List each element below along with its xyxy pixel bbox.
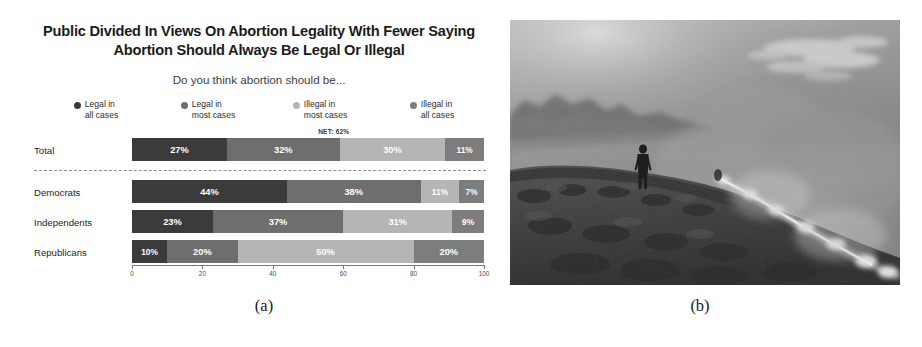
stacked-bar-democrats: 44%38%11%7% <box>132 180 484 203</box>
stacked-bar-total: 27%32%30%11% <box>132 138 484 161</box>
group-divider <box>34 170 486 171</box>
legend-label: Illegal in most cases <box>304 99 347 120</box>
bar-segment[interactable]: 11% <box>445 138 484 161</box>
chart-subtitle: Do you think abortion should be... <box>34 73 484 86</box>
axis-tick-label: 0 <box>130 270 134 277</box>
bar-segment[interactable]: 23% <box>132 210 213 233</box>
axis-tick-label: 40 <box>269 270 276 277</box>
bar-segment[interactable]: 11% <box>421 180 460 203</box>
axis-tick <box>132 265 133 269</box>
legend-label: Legal in most cases <box>192 99 235 120</box>
legend-label: Legal in all cases <box>85 99 118 120</box>
axis-tick <box>343 265 344 269</box>
legend-swatch-icon <box>410 102 417 109</box>
row-label-total: Total <box>34 145 54 156</box>
bar-segment[interactable]: 20% <box>167 240 237 263</box>
chart-panel-a: Public Divided In Views On Abortion Lega… <box>0 0 500 347</box>
axis-tick <box>484 265 485 269</box>
bar-segment[interactable]: 50% <box>238 240 414 263</box>
legend-swatch-icon <box>74 102 81 109</box>
wildfire-photograph <box>510 20 900 285</box>
row-label-independents: Independents <box>34 217 92 228</box>
bar-segment[interactable]: 38% <box>287 180 421 203</box>
row-label-democrats: Democrats <box>34 187 80 198</box>
axis-tick-label: 20 <box>199 270 206 277</box>
bar-segment[interactable]: 27% <box>132 138 227 161</box>
axis-tick <box>273 265 274 269</box>
subfigure-caption-b: (b) <box>690 296 709 316</box>
axis-tick <box>414 265 415 269</box>
bar-segment[interactable]: 32% <box>227 138 340 161</box>
bar-segment[interactable]: 31% <box>343 210 452 233</box>
legend-item-3[interactable]: Illegal in all cases <box>376 99 488 120</box>
bar-segment[interactable]: 30% <box>340 138 446 161</box>
legend-label: Illegal in all cases <box>421 99 454 120</box>
row-label-republicans: Republicans <box>34 247 87 258</box>
subfigure-caption-a: (a) <box>255 296 273 316</box>
legend-swatch-icon <box>293 102 300 109</box>
axis-tick-label: 100 <box>479 270 490 277</box>
axis-tick-label: 80 <box>410 270 417 277</box>
bar-segment[interactable]: 10% <box>132 240 167 263</box>
axis-tick-label: 60 <box>340 270 347 277</box>
net-annotation-0: NET: 62% <box>318 128 349 135</box>
photo-panel-b <box>510 20 900 285</box>
axis-baseline <box>132 265 484 266</box>
bar-segment[interactable]: 37% <box>213 210 343 233</box>
figure-container: Public Divided In Views On Abortion Lega… <box>0 0 922 347</box>
bar-segment[interactable]: 20% <box>414 240 484 263</box>
chart-title: Public Divided In Views On Abortion Lega… <box>34 22 484 60</box>
axis-tick <box>202 265 203 269</box>
stacked-bar-independents: 23%37%31%9% <box>132 210 484 233</box>
bar-segment[interactable]: 9% <box>452 210 484 233</box>
legend-item-0[interactable]: Legal in all cases <box>40 99 152 120</box>
chart-plot-area: Total27%32%30%11%Democrats44%38%11%7%Ind… <box>132 138 484 268</box>
legend-item-2[interactable]: Illegal in most cases <box>264 99 376 120</box>
bar-segment[interactable]: 44% <box>132 180 287 203</box>
legend-swatch-icon <box>181 102 188 109</box>
legend-item-1[interactable]: Legal in most cases <box>152 99 264 120</box>
stacked-bar-republicans: 10%20%50%20% <box>132 240 484 263</box>
bar-segment[interactable]: 7% <box>459 180 484 203</box>
chart-legend: Legal in all casesLegal in most casesIll… <box>40 99 488 120</box>
